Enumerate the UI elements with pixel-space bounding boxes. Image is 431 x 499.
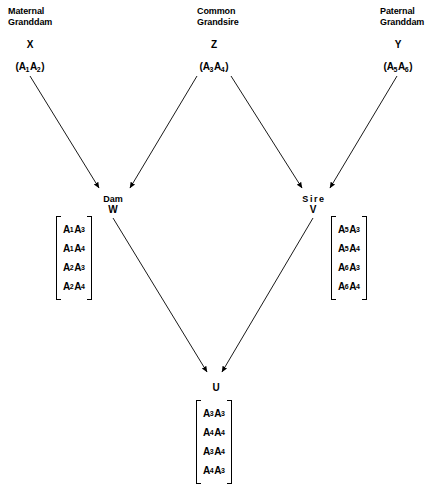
matrix-row: A4A4 xyxy=(203,423,225,442)
allele-2-subscript: 4 xyxy=(356,243,360,255)
node-label-y: Y xyxy=(383,40,413,50)
bracket-right-icon xyxy=(87,216,92,300)
column-header-line1: Paternal xyxy=(380,6,424,17)
allele-1-subscript: 6 xyxy=(345,281,349,293)
matrix-row: A6A4 xyxy=(338,277,360,296)
bracket-right-icon xyxy=(362,216,367,300)
matrix-rows: A3A3 A4A4 A3A4 A4A3 xyxy=(201,400,227,484)
allele-2-subscript: 3 xyxy=(356,224,360,236)
allele-2-subscript: 4 xyxy=(221,446,225,458)
matrix-row: A5A4 xyxy=(338,239,360,258)
column-header-line1: Common xyxy=(197,6,239,17)
allele-1-subscript: 1 xyxy=(70,224,74,236)
allele-1-subscript: 5 xyxy=(345,243,349,255)
edge-x-to-dam xyxy=(30,76,99,188)
paren-close: ) xyxy=(225,61,228,72)
genotype-matrix-dam: A1A3 A1A4 A2A3 A2A4 xyxy=(56,216,92,300)
node-name-dam: Dam xyxy=(85,194,141,204)
node-label-u: U xyxy=(188,383,244,393)
allele-1: A xyxy=(203,61,210,72)
allele-1-subscript: 5 xyxy=(345,224,349,236)
allele-1-subscript: 1 xyxy=(70,243,74,255)
matrix-row: A3A4 xyxy=(203,442,225,461)
matrix-row: A6A3 xyxy=(338,258,360,277)
paren-close: ) xyxy=(409,61,412,72)
allele-1-subscript: 2 xyxy=(70,281,74,293)
node-label-v: V xyxy=(285,205,341,215)
allele-2-subscript: 4 xyxy=(221,427,225,439)
edge-dam-to-u xyxy=(113,218,207,372)
pedigree-diagram: Maternal Granddam Common Grandsire Pater… xyxy=(0,0,431,499)
allele-2-subscript: 4 xyxy=(81,243,85,255)
node-name-sire: Sire xyxy=(286,194,342,204)
column-header-line2: Granddam xyxy=(380,17,424,28)
node-label-w: W xyxy=(85,205,141,215)
allele-1-subscript: 4 xyxy=(210,465,214,477)
node-label-x: X xyxy=(15,40,45,50)
genotype-matrix-sire: A5A3 A5A4 A6A3 A6A4 xyxy=(331,216,367,300)
matrix-row: A3A3 xyxy=(203,404,225,423)
column-header-paternal-granddam: Paternal Granddam xyxy=(380,6,424,28)
column-header-maternal-granddam: Maternal Granddam xyxy=(8,6,52,28)
genotype-x: (A1A2) xyxy=(0,61,60,76)
allele-1: A xyxy=(387,61,394,72)
matrix-rows: A1A3 A1A4 A2A3 A2A4 xyxy=(61,216,87,300)
genotype-y: (A5A6) xyxy=(368,61,428,76)
edge-sire-to-u xyxy=(222,218,313,372)
allele-1: A xyxy=(19,61,26,72)
allele-2-subscript: 4 xyxy=(356,281,360,293)
edge-z-to-dam xyxy=(130,76,197,188)
node-label-z: Z xyxy=(199,40,229,50)
allele-2-subscript: 3 xyxy=(221,465,225,477)
matrix-row: A5A3 xyxy=(338,220,360,239)
allele-2-subscript: 3 xyxy=(356,262,360,274)
genotype-matrix-offspring: A3A3 A4A4 A3A4 A4A3 xyxy=(196,400,232,484)
matrix-row: A4A3 xyxy=(203,461,225,480)
allele-2-subscript: 3 xyxy=(81,224,85,236)
allele-1-subscript: 3 xyxy=(210,66,214,73)
column-header-line2: Grandsire xyxy=(197,17,239,28)
allele-2-subscript: 3 xyxy=(221,408,225,420)
allele-2-subscript: 4 xyxy=(81,281,85,293)
genotype-z: (A3A4) xyxy=(184,61,244,76)
allele-2-subscript: 3 xyxy=(81,262,85,274)
column-header-line2: Granddam xyxy=(8,17,52,28)
allele-1-subscript: 5 xyxy=(394,66,398,73)
matrix-row: A1A3 xyxy=(63,220,85,239)
column-header-line1: Maternal xyxy=(8,6,52,17)
matrix-rows: A5A3 A5A4 A6A3 A6A4 xyxy=(336,216,362,300)
allele-1-subscript: 1 xyxy=(26,66,30,73)
allele-1-subscript: 6 xyxy=(345,262,349,274)
paren-close: ) xyxy=(41,61,44,72)
allele-1-subscript: 3 xyxy=(210,446,214,458)
matrix-row: A1A4 xyxy=(63,239,85,258)
allele-1-subscript: 3 xyxy=(210,408,214,420)
allele-1-subscript: 4 xyxy=(210,427,214,439)
edge-z-to-sire xyxy=(231,76,302,188)
edge-y-to-sire xyxy=(330,76,397,188)
column-header-common-grandsire: Common Grandsire xyxy=(197,6,239,28)
matrix-row: A2A4 xyxy=(63,277,85,296)
matrix-row: A2A3 xyxy=(63,258,85,277)
bracket-right-icon xyxy=(227,400,232,484)
allele-1-subscript: 2 xyxy=(70,262,74,274)
